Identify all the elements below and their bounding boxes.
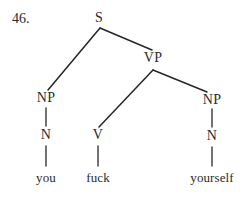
leaf-you: you — [36, 171, 56, 184]
leaf-yourself: yourself — [190, 171, 233, 184]
node-np-object: NP — [203, 93, 221, 107]
branch-vp-v — [99, 70, 153, 127]
node-vp: VP — [144, 51, 162, 65]
branch-s-vp — [100, 28, 152, 50]
node-n-subject: N — [41, 128, 51, 142]
leaf-fuck: fuck — [86, 171, 110, 184]
branch-s-np_subj — [48, 28, 100, 90]
node-s: S — [95, 11, 103, 25]
syntax-tree-figure: 46. S VP NP NP N V N you fuck yourself — [0, 0, 244, 199]
branch-vp-np_obj — [153, 70, 207, 92]
node-np-subject: NP — [37, 91, 55, 105]
node-v: V — [93, 128, 103, 142]
node-n-object: N — [207, 129, 217, 143]
